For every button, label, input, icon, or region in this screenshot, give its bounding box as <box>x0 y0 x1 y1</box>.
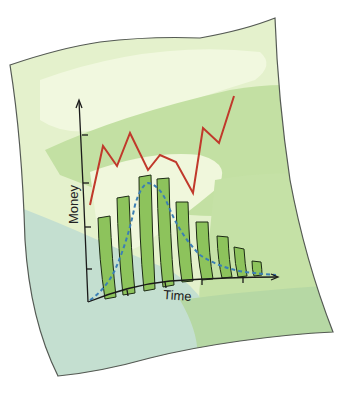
paper-sheet <box>0 0 349 397</box>
chart-illustration: Money Time <box>0 0 349 397</box>
x-axis-label: Time <box>163 287 192 304</box>
y-axis-label: Money <box>66 184 81 224</box>
